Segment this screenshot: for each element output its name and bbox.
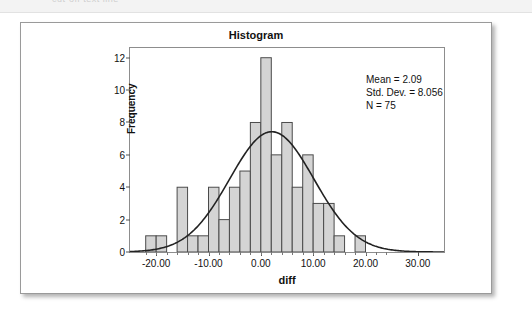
x-axis-tick-label: 30.00 [405, 258, 430, 269]
x-axis-tick-label: 0.00 [251, 258, 270, 269]
x-axis-minor-tick [386, 252, 387, 255]
histogram-bar [282, 122, 292, 252]
histogram-bar [219, 220, 229, 252]
figure-card: Histogram Frequency diff 024681012-20.00… [20, 22, 492, 294]
histogram-bar [209, 187, 219, 252]
top-clipped-strip: cut-off text line [0, 0, 532, 13]
x-axis-tick-label: 10.00 [301, 258, 326, 269]
histogram-bar [334, 236, 344, 252]
x-axis-minor-tick [334, 252, 335, 255]
x-axis-tick-label: -10.00 [194, 258, 222, 269]
x-axis-minor-tick [156, 252, 157, 255]
stat-std-dev: Std. Dev. = 8.056 [366, 86, 443, 99]
histogram-bar [292, 187, 302, 252]
x-axis-minor-tick [250, 252, 251, 255]
x-axis-minor-tick [324, 252, 325, 255]
x-axis-minor-tick [177, 252, 178, 255]
histogram-bar [198, 236, 208, 252]
x-axis-minor-tick [345, 252, 346, 255]
histogram-bar [188, 236, 198, 252]
x-axis-minor-tick [355, 252, 356, 255]
histogram-bars [146, 58, 366, 252]
x-axis-minor-tick [313, 252, 314, 255]
statistics-annotation: Mean = 2.09 Std. Dev. = 8.056 N = 75 [366, 73, 443, 112]
top-clipped-text: cut-off text line [52, 0, 119, 4]
x-axis-minor-tick [188, 252, 189, 255]
histogram-bar [271, 155, 281, 252]
x-axis-tick-mark [418, 252, 419, 256]
x-axis-minor-tick [271, 252, 272, 255]
x-axis-minor-tick [366, 252, 367, 255]
chart-title: Histogram [21, 29, 491, 41]
y-axis-tick-label: 8 [119, 117, 125, 128]
histogram-bar [229, 187, 239, 252]
histogram-bar [240, 171, 250, 252]
y-axis-tick-label: 12 [114, 52, 125, 63]
x-axis-minor-tick [240, 252, 241, 255]
stat-n: N = 75 [366, 99, 443, 112]
x-axis-minor-tick [261, 252, 262, 255]
y-axis-tick-label: 10 [114, 85, 125, 96]
x-axis-minor-tick [209, 252, 210, 255]
x-axis-minor-tick [219, 252, 220, 255]
x-axis-minor-tick [376, 252, 377, 255]
x-axis-minor-tick [146, 252, 147, 255]
histogram-bar [313, 203, 323, 252]
histogram-bar [261, 58, 271, 252]
x-axis-minor-tick [167, 252, 168, 255]
x-axis-minor-tick [229, 252, 230, 255]
y-axis-tick-label: 0 [119, 247, 125, 258]
y-axis-tick-label: 4 [119, 182, 125, 193]
stat-mean: Mean = 2.09 [366, 73, 443, 86]
x-axis-tick-label: -20.00 [142, 258, 170, 269]
x-axis-tick-label: 20.00 [353, 258, 378, 269]
y-axis-tick-label: 6 [119, 149, 125, 160]
y-axis-tick-label: 2 [119, 214, 125, 225]
x-axis-minor-tick [198, 252, 199, 255]
x-axis-minor-tick [282, 252, 283, 255]
histogram-bar [250, 122, 260, 252]
x-axis-minor-tick [303, 252, 304, 255]
x-axis-label: diff [278, 274, 295, 286]
x-axis-minor-tick [292, 252, 293, 255]
